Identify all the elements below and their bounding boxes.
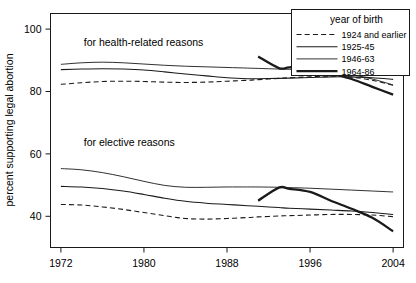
x-tick-label: 1972 [49,257,73,269]
legend-label-1925-45: 1925-45 [342,42,375,52]
annotation-label-0: for health-related reasons [84,36,204,48]
legend[interactable]: year of birth1924 and earlier1925-451946… [292,10,410,77]
legend-label-1924-and-earlier: 1924 and earlier [342,30,407,40]
y-tick-label: 60 [30,148,42,160]
legend-label-1946-63: 1946-63 [342,54,375,64]
y-axis-title: percent supporting legal abortion [3,53,15,206]
x-tick-label: 2004 [381,257,405,269]
annotation-label-1: for elective reasons [84,136,175,148]
legend-title: year of birth [330,14,383,25]
y-tick-label: 80 [30,85,42,97]
x-tick-label: 1980 [132,257,156,269]
legend-label-1964-86: 1964-86 [342,67,375,77]
y-tick-label: 100 [24,23,42,35]
chart-figure: 19721980198819962004406080100 for health… [0,0,416,283]
line-chart: 19721980198819962004406080100 for health… [0,0,416,283]
y-tick-label: 40 [30,210,42,222]
x-tick-label: 1988 [215,257,239,269]
x-tick-label: 1996 [298,257,322,269]
